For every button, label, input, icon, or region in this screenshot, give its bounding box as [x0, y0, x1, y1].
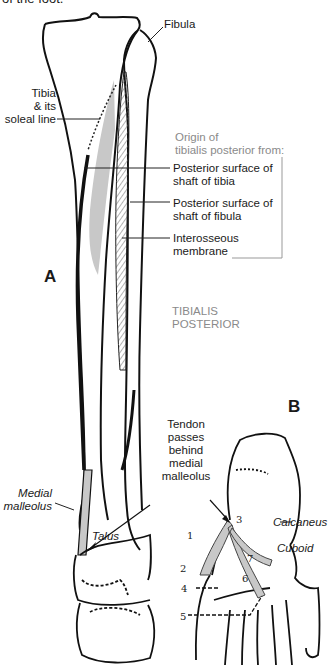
label-interosseous-membrane: Interosseous membrane	[173, 232, 239, 258]
insertion-number-5: 5	[180, 611, 186, 622]
label-posterior-tibia: Posterior surface of shaft of tibia	[173, 162, 273, 188]
label-fibula: Fibula	[164, 18, 195, 31]
label-cuboid: Cuboid	[277, 542, 313, 555]
insertion-number-6: 6	[242, 573, 248, 584]
insertion-number-3: 3	[236, 514, 242, 525]
label-tibialis-posterior: TIBIALIS POSTERIOR	[172, 305, 240, 331]
panel-a-letter: A	[44, 270, 56, 283]
caption-fragment: of the foot.	[2, 0, 63, 5]
label-talus: Talus	[92, 530, 119, 543]
insertion-number-7: 7	[247, 553, 253, 564]
label-tibia: Tibia & its soleal line	[0, 87, 56, 126]
insertion-number-4: 4	[181, 583, 187, 594]
label-origin-heading: Origin of tibialis posterior from:	[175, 131, 284, 157]
panel-b-letter: B	[288, 400, 300, 413]
label-medial-malleolus: Medial malleolus	[0, 487, 52, 513]
muscle-origin-shading	[89, 80, 115, 275]
label-posterior-fibula: Posterior surface of shaft of fibula	[173, 197, 273, 223]
tendon-insertion-b	[200, 520, 272, 598]
label-calcaneus: Calcaneus	[273, 516, 327, 529]
insertion-number-2: 2	[180, 563, 186, 574]
insertion-number-1: 1	[187, 530, 193, 541]
label-tendon-behind-malleolus: Tendon passes behind medial malleolus	[158, 418, 214, 483]
